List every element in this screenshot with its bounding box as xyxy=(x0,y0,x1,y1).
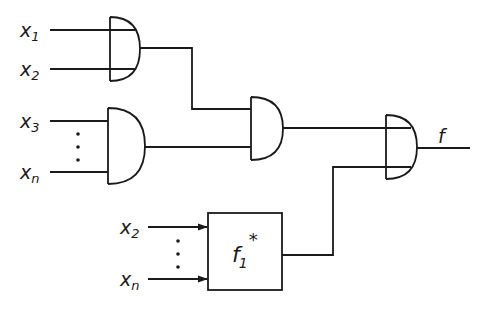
input-label-xn: xn xyxy=(19,161,40,186)
and-gate-4 xyxy=(386,115,417,179)
logic-circuit-diagram: x1 x2 x3 xn x2 xn f f1* xyxy=(0,0,485,321)
block-input-label-x2: x2 xyxy=(119,216,140,241)
ellipsis-dots-2 xyxy=(176,239,180,269)
wire-gate1-to-gate3 xyxy=(140,48,251,109)
and-gate-3 xyxy=(251,97,283,160)
and-gate-2 xyxy=(108,108,145,184)
block-f1-star xyxy=(208,213,282,290)
block-label: f1* xyxy=(232,229,258,271)
input-label-x2: x2 xyxy=(19,58,40,83)
and-gate-1 xyxy=(110,17,140,81)
output-label-f: f xyxy=(438,125,448,147)
wire-block-to-gate4 xyxy=(282,167,411,255)
input-label-x1: x1 xyxy=(19,19,40,44)
ellipsis-dots-1 xyxy=(76,132,80,162)
input-label-x3: x3 xyxy=(19,110,40,135)
block-input-label-xn: xn xyxy=(119,268,140,293)
